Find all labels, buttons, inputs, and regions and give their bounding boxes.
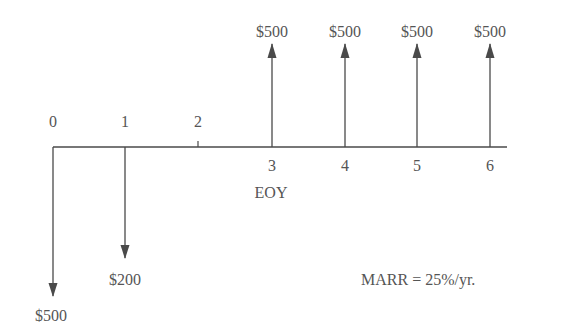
axis-label-eoy: EOY <box>255 185 288 201</box>
arrowhead-icon <box>341 43 350 58</box>
cash-flow-amount-6: $500 <box>474 24 506 40</box>
arrowhead-icon <box>49 283 58 297</box>
cash-flow-amount-4: $500 <box>329 24 361 40</box>
period-label-1: 1 <box>121 114 129 130</box>
period-label-2: 2 <box>194 114 202 130</box>
period-label-6: 6 <box>486 158 494 174</box>
cash-flow-amount-5: $500 <box>401 24 433 40</box>
arrowhead-icon <box>486 43 495 58</box>
period-label-0: 0 <box>49 114 57 130</box>
arrowhead-icon <box>413 43 422 58</box>
period-label-5: 5 <box>413 158 421 174</box>
period-label-3: 3 <box>268 158 276 174</box>
cash-flow-amount-0: $500 <box>35 308 67 324</box>
period-label-4: 4 <box>341 158 349 174</box>
arrowhead-icon <box>121 245 130 259</box>
cash-flow-amount-3: $500 <box>256 24 288 40</box>
arrowhead-icon <box>268 43 277 58</box>
marr-label: MARR = 25%/yr. <box>361 272 475 288</box>
cash-flow-amount-1: $200 <box>109 272 141 288</box>
